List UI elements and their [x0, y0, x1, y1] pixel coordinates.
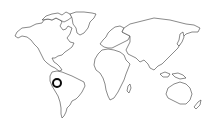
- africa: [94, 49, 130, 100]
- southeast-asia-islands: [160, 72, 186, 79]
- location-ring-icon[interactable]: [52, 78, 62, 88]
- madagascar: [127, 84, 131, 93]
- greenland: [70, 12, 96, 35]
- north-america: [15, 18, 74, 71]
- new-zealand: [194, 100, 201, 109]
- world-map-outline: [0, 0, 213, 123]
- asia: [122, 18, 200, 70]
- australia: [166, 82, 192, 104]
